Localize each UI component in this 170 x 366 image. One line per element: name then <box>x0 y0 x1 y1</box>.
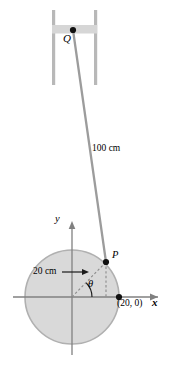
x-axis-label: x <box>152 297 158 308</box>
y-axis-arrowhead <box>69 221 76 229</box>
point-p-label: P <box>112 250 118 261</box>
theta-angle-label: θ <box>88 279 93 290</box>
point-p-dot <box>103 259 109 265</box>
y-axis-label: y <box>55 214 60 225</box>
piston-rail-left <box>52 10 55 85</box>
radius-length-label: 20 cm <box>33 267 56 277</box>
rod-length-label: 100 cm <box>92 144 120 154</box>
slider-crank-diagram <box>0 0 170 366</box>
crank-end-coordinate-label: (20, 0) <box>117 299 142 309</box>
point-q-label: Q <box>63 33 71 44</box>
piston-rail-right <box>94 10 97 85</box>
